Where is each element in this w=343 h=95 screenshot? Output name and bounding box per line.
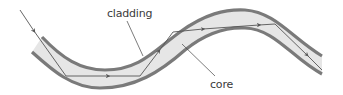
optical-fibre-diagram: cladding core xyxy=(0,0,343,95)
ray-incident xyxy=(20,10,34,31)
fibre-svg xyxy=(0,0,343,95)
core-leader-line xyxy=(182,44,215,76)
cladding-label: cladding xyxy=(107,8,152,19)
cladding-leader-line xyxy=(127,21,143,56)
core-label: core xyxy=(210,79,233,90)
